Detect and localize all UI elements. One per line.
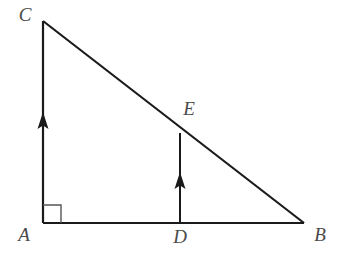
vertex-label-E: E — [182, 98, 195, 119]
geometry-figure: C A D B E — [0, 0, 343, 268]
vertex-label-C: C — [19, 4, 32, 25]
vertex-label-D: D — [172, 226, 187, 247]
vertex-label-B: B — [314, 224, 326, 245]
right-angle-marker — [43, 205, 61, 223]
vertex-label-A: A — [16, 224, 30, 245]
segment-CB — [43, 21, 304, 223]
geometry-canvas: C A D B E — [0, 0, 343, 268]
